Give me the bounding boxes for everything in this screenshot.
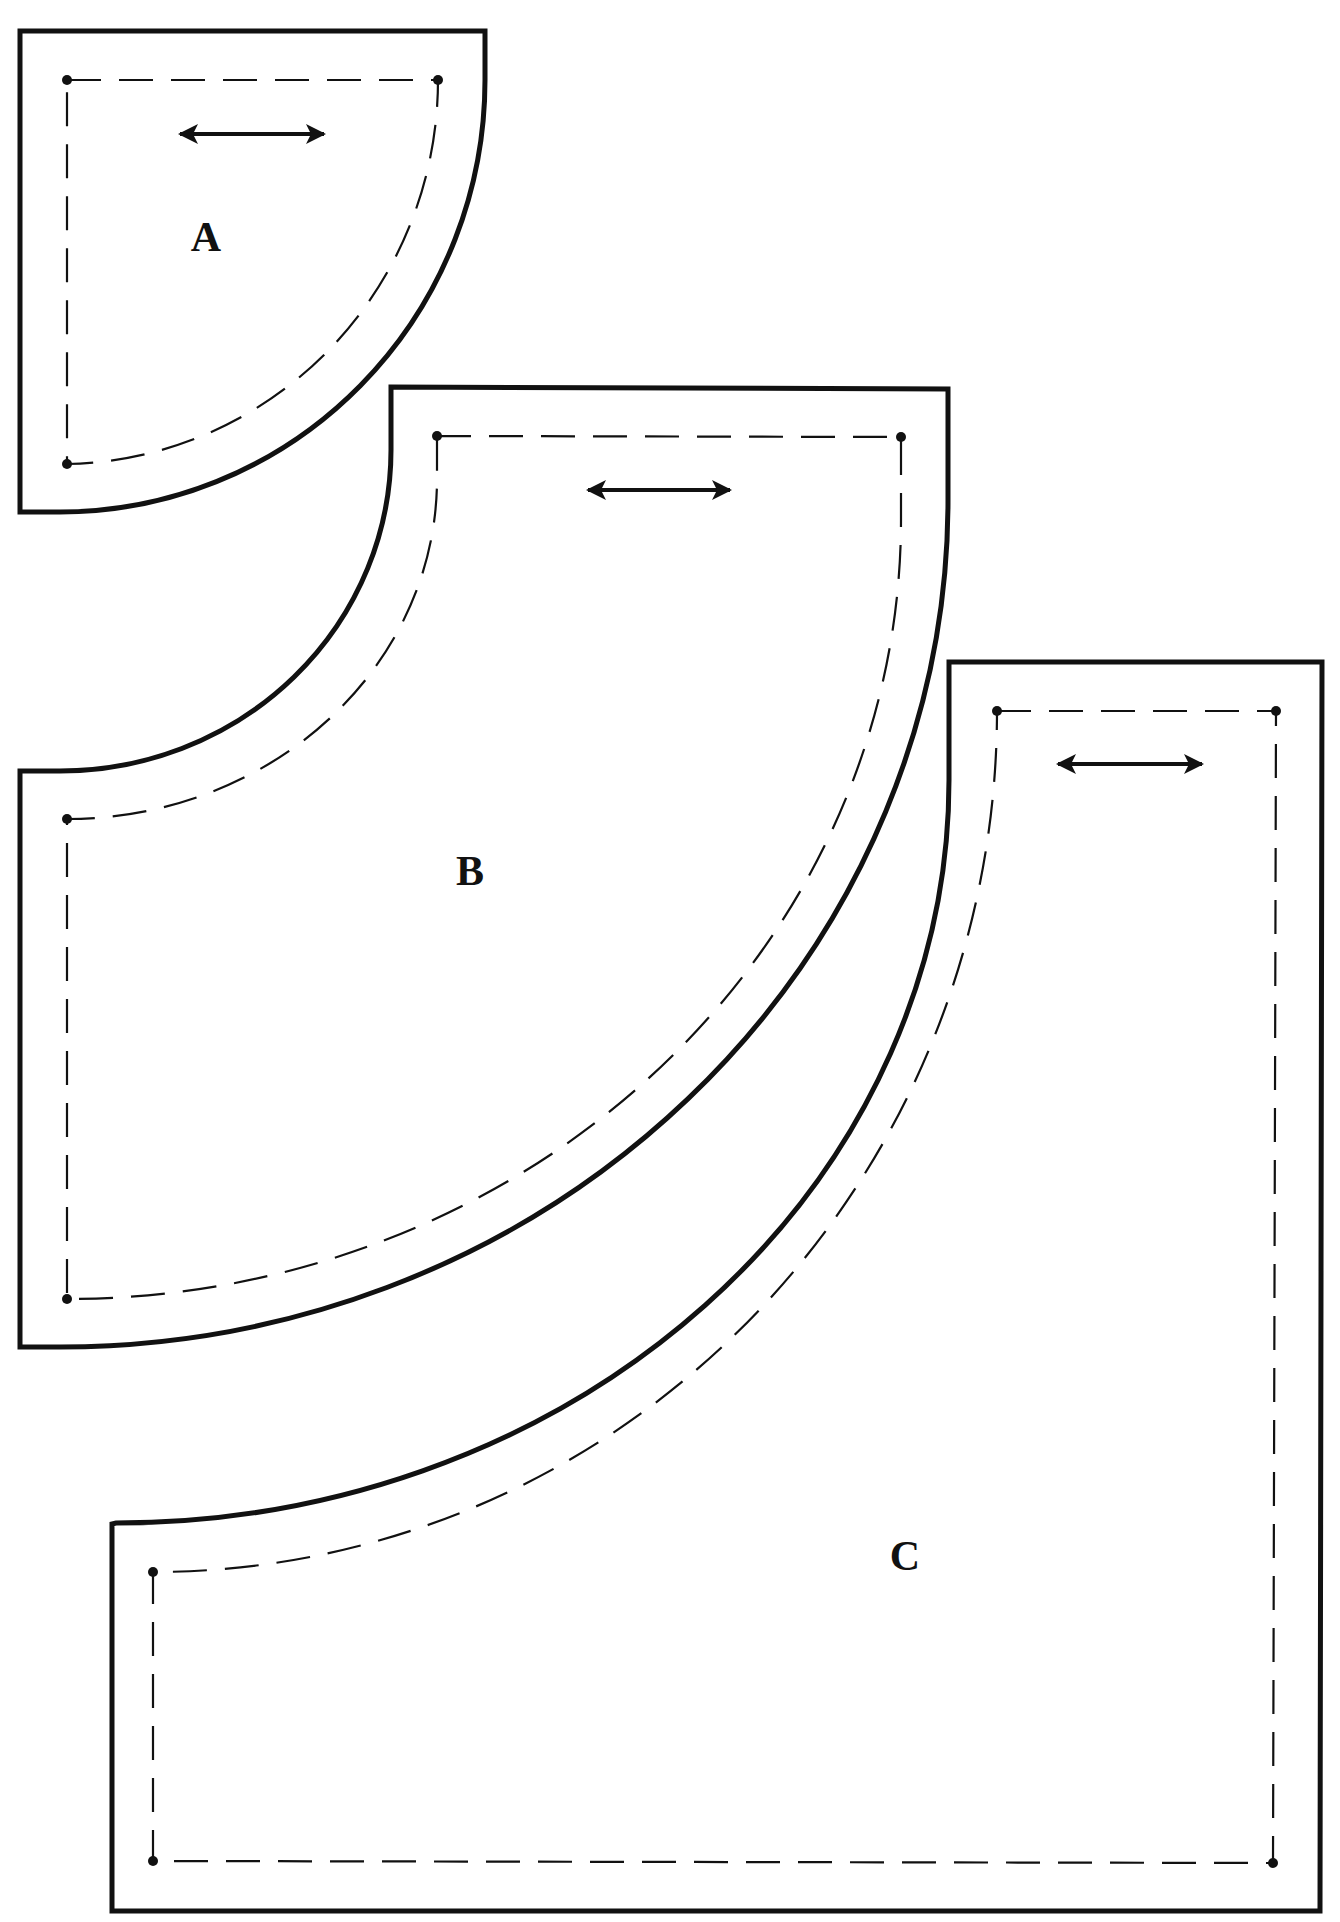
seam-corner-dot <box>433 75 443 85</box>
pattern-canvas <box>0 0 1340 1922</box>
seam-corner-dot <box>62 1294 72 1304</box>
seam-corner-dot <box>62 75 72 85</box>
seam-corner-dot <box>148 1567 158 1577</box>
piece-label-c: C <box>890 1535 920 1577</box>
piece-label-a: A <box>191 216 221 258</box>
seam-corner-dot <box>1268 1858 1278 1868</box>
seam-corner-dot <box>896 432 906 442</box>
seam-corner-dot <box>992 706 1002 716</box>
seam-corner-dot <box>432 431 442 441</box>
seam-corner-dot <box>148 1856 158 1866</box>
seam-corner-dot <box>1271 706 1281 716</box>
seam-corner-dot <box>62 814 72 824</box>
piece-label-b: B <box>456 850 484 892</box>
seam-corner-dot <box>62 459 72 469</box>
